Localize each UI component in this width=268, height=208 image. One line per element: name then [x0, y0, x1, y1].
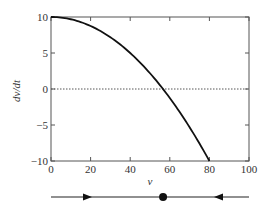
stable-equilibrium-dot: [159, 193, 167, 201]
y-tick-label: −5: [36, 119, 48, 131]
y-tick-label: 10: [37, 11, 49, 23]
x-tick-label: 60: [164, 163, 176, 175]
x-tick-label: 100: [241, 163, 258, 175]
y-tick-label: −10: [31, 155, 49, 167]
x-tick-label: 20: [85, 163, 97, 175]
plot-area: 020406080100−10−50510vdv/dt: [10, 11, 258, 201]
x-tick-label: 40: [125, 163, 137, 175]
arrow-right-icon: [83, 194, 92, 201]
chart: 020406080100−10−50510vdv/dt: [0, 0, 268, 208]
x-axis-label: v: [148, 175, 153, 187]
x-tick-label: 80: [204, 163, 216, 175]
x-tick-label: 0: [48, 163, 54, 175]
y-tick-label: 0: [43, 83, 49, 95]
y-tick-label: 5: [43, 47, 49, 59]
y-axis-label: dv/dt: [10, 79, 22, 102]
arrow-left-icon: [214, 194, 223, 201]
